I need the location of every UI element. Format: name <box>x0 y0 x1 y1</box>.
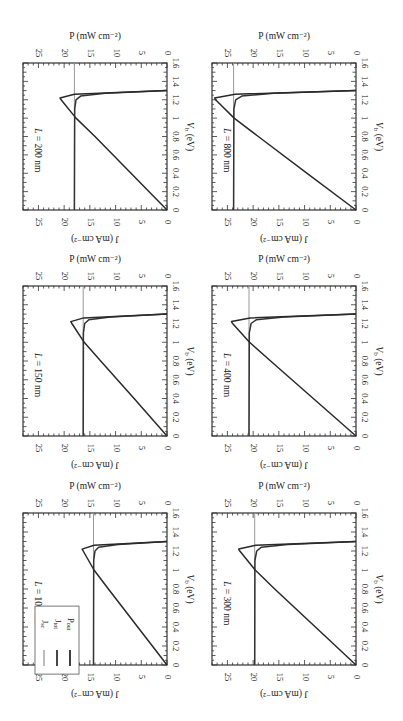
tick-label-p: 15 <box>275 272 285 281</box>
series-j-tot <box>83 314 167 436</box>
tick-label-p: 0 <box>163 501 173 505</box>
tick-label-vb: 0.6 <box>360 603 370 614</box>
tick-label-j: 0 <box>163 446 173 450</box>
tick-label-vb: 0.8 <box>171 584 181 595</box>
tick-label-j: 0 <box>163 220 173 224</box>
tick-label-vb: 1.2 <box>171 318 181 329</box>
series-p-out <box>60 91 167 210</box>
chart-panel: 0510152025051015202500.20.40.60.811.21.4… <box>23 254 195 470</box>
tick-label-j: 10 <box>301 673 311 682</box>
tick-label-p: 10 <box>301 272 311 281</box>
tick-label-vb: 1 <box>360 568 370 572</box>
tick-label-vb: 1.2 <box>360 318 370 329</box>
tick-label-j: 15 <box>275 218 285 227</box>
tick-label-vb: 1.6 <box>171 508 181 519</box>
series-j-tot <box>94 542 168 666</box>
tick-label-p: 25 <box>34 499 44 508</box>
tick-label-p: 5 <box>137 51 147 55</box>
plot-frame <box>23 286 167 436</box>
tick-label-vb: 0.4 <box>171 393 181 404</box>
tick-label-p: 10 <box>112 49 122 58</box>
series-j-tot <box>255 542 356 666</box>
x-axis-label: Vb (eV) <box>183 346 194 375</box>
plot-frame <box>212 286 356 436</box>
tick-label-vb: 1 <box>360 116 370 120</box>
chart-panel: 0510152025051015202500.20.40.60.811.21.4… <box>23 31 195 244</box>
tick-label-p: 0 <box>163 51 173 55</box>
tick-label-j: 20 <box>249 673 259 682</box>
chart-panel: 0510152025051015202500.20.40.60.811.21.4… <box>212 481 384 699</box>
tick-label-p: 15 <box>275 49 285 58</box>
tick-label-p: 5 <box>326 274 336 278</box>
tick-label-p: 25 <box>34 49 44 58</box>
tick-label-j: 5 <box>326 675 336 679</box>
tick-label-j: 25 <box>223 673 233 682</box>
tick-label-j: 0 <box>163 675 173 679</box>
tick-label-j: 15 <box>275 444 285 453</box>
tick-label-vb: 1.6 <box>360 508 370 519</box>
x-axis-label: Vb (eV) <box>183 574 194 603</box>
j-axis-label: J (mA cm⁻²) <box>260 233 308 244</box>
j-axis-label: J (mA cm⁻²) <box>260 459 308 470</box>
tick-label-j: 20 <box>60 444 70 453</box>
tick-label-vb: 0.2 <box>360 641 370 652</box>
tick-label-j: 15 <box>86 673 96 682</box>
tick-label-j: 25 <box>223 218 233 227</box>
tick-label-p: 5 <box>137 274 147 278</box>
tick-label-j: 15 <box>275 673 285 682</box>
panel-title: L = 150 nm <box>33 352 43 398</box>
tick-label-vb: 0 <box>360 663 370 667</box>
tick-label-j: 10 <box>301 444 311 453</box>
tick-label-p: 15 <box>86 49 96 58</box>
tick-label-p: 15 <box>86 499 96 508</box>
chart-panel: 0510152025051015202500.20.40.60.811.21.4… <box>23 481 195 699</box>
series-p-out <box>71 314 167 436</box>
tick-label-j: 10 <box>301 218 311 227</box>
p-axis-label: P (mW cm⁻²) <box>69 31 121 42</box>
tick-label-p: 10 <box>301 499 311 508</box>
tick-label-vb: 1.2 <box>171 94 181 105</box>
tick-label-vb: 0 <box>171 434 181 438</box>
tick-label-p: 20 <box>60 272 70 281</box>
tick-label-vb: 1.4 <box>360 299 370 310</box>
series-p-out <box>232 314 357 436</box>
series-p-out <box>215 91 356 210</box>
tick-label-vb: 1 <box>171 340 181 344</box>
tick-label-p: 20 <box>60 49 70 58</box>
tick-label-j: 15 <box>86 218 96 227</box>
tick-label-j: 5 <box>137 220 147 224</box>
tick-label-vb: 0.6 <box>360 374 370 385</box>
p-axis-label: P (mW cm⁻²) <box>258 254 310 265</box>
tick-label-vb: 1.2 <box>360 546 370 557</box>
chart-panel: 0510152025051015202500.20.40.60.811.21.4… <box>212 254 384 470</box>
tick-label-p: 5 <box>326 51 336 55</box>
tick-label-p: 15 <box>86 272 96 281</box>
tick-label-j: 20 <box>60 218 70 227</box>
tick-label-vb: 0 <box>360 208 370 212</box>
tick-label-vb: 1 <box>171 568 181 572</box>
series-j-tot <box>234 91 356 210</box>
tick-label-j: 20 <box>249 218 259 227</box>
tick-label-vb: 0.2 <box>171 641 181 652</box>
series-j-tot <box>74 91 167 210</box>
tick-label-vb: 1.4 <box>171 299 181 310</box>
p-axis-label: P (mW cm⁻²) <box>69 254 121 265</box>
tick-label-p: 25 <box>223 499 233 508</box>
tick-label-vb: 1.6 <box>171 58 181 69</box>
tick-label-j: 5 <box>137 675 147 679</box>
x-axis-label: Vb (eV) <box>372 574 383 603</box>
tick-label-p: 10 <box>112 272 122 281</box>
tick-label-p: 25 <box>223 49 233 58</box>
tick-label-p: 0 <box>352 501 362 505</box>
tick-label-j: 0 <box>352 675 362 679</box>
tick-label-vb: 0.2 <box>360 186 370 197</box>
figure: 0510152025051015202500.20.40.60.811.21.4… <box>0 0 403 721</box>
tick-label-vb: 0.8 <box>360 356 370 367</box>
tick-label-p: 5 <box>326 501 336 505</box>
tick-label-p: 20 <box>249 499 259 508</box>
plot-frame <box>212 513 356 665</box>
tick-label-vb: 1.4 <box>360 527 370 538</box>
tick-label-vb: 0.6 <box>171 374 181 385</box>
tick-label-vb: 0.2 <box>171 186 181 197</box>
tick-label-vb: 1.6 <box>360 281 370 292</box>
